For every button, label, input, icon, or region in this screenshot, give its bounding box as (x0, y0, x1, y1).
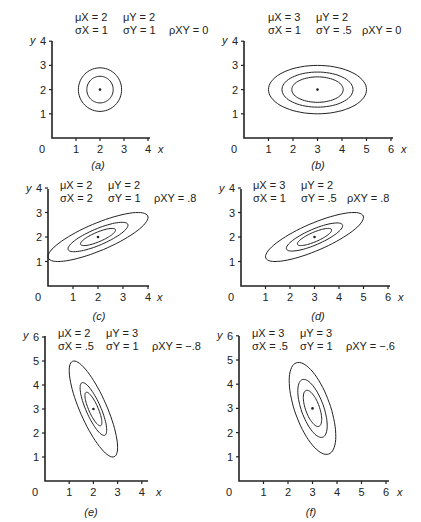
mean-point (99, 88, 102, 91)
x-tick-label: 5 (358, 486, 364, 498)
x-tick-label: 2 (90, 486, 96, 498)
param-mu-y: μY = 2 (301, 179, 333, 191)
param-rho-xy: ρXY = 0 (169, 24, 208, 36)
y-tick-label: 3 (227, 402, 233, 414)
x-axis-label: x (156, 291, 163, 303)
param-mu-x: μX = 3 (253, 179, 285, 191)
x-tick-label: 0 (228, 291, 234, 303)
mean-point (311, 407, 314, 410)
param-sigma-y: σY = 1 (108, 192, 141, 204)
y-tick-label: 1 (40, 108, 46, 120)
x-tick-label: 4 (334, 486, 340, 498)
x-tick-label: 6 (388, 143, 394, 155)
param-rho-xy: ρXY = .8 (154, 192, 196, 204)
param-mu-y: μY = 2 (123, 11, 155, 23)
y-axis-label: y (22, 329, 30, 341)
y-tick-label: 6 (227, 330, 233, 342)
y-tick-label: 1 (36, 256, 42, 268)
y-axis-label: y (218, 182, 226, 194)
y-tick-label: 4 (33, 379, 39, 391)
panel-d: 12340123456xy(d)μX = 3μY = 2σX = 1σY = .… (218, 179, 404, 322)
mean-point (92, 408, 95, 411)
param-sigma-x: σX = .5 (252, 340, 288, 352)
mean-point (97, 236, 100, 239)
param-sigma-y: σY = 1 (106, 340, 139, 352)
panel-b: 12340123456xy(b)μX = 3μY = 2σX = 1σY = .… (221, 11, 407, 171)
panel-label: (c) (93, 310, 106, 322)
param-mu-y: μY = 2 (316, 11, 348, 23)
x-tick-label: 0 (32, 486, 38, 498)
x-tick-label: 2 (97, 143, 103, 155)
param-mu-x: μX = 2 (75, 11, 107, 23)
x-tick-label: 0 (226, 486, 232, 498)
panel-c: 123401234xy(c)μX = 2μY = 2σX = 2σY = 1ρX… (25, 179, 196, 322)
mean-point (316, 88, 319, 91)
x-tick-label: 3 (121, 143, 127, 155)
x-tick-label: 2 (290, 143, 296, 155)
x-axis-label: x (157, 143, 164, 155)
x-tick-label: 5 (360, 291, 366, 303)
param-rho-xy: ρXY = 0 (362, 24, 401, 36)
param-rho-xy: ρXY = .8 (347, 192, 389, 204)
x-axis-label: x (155, 486, 162, 498)
x-axis-label: x (400, 143, 407, 155)
y-tick-label: 4 (229, 182, 235, 194)
axes (45, 336, 148, 481)
param-sigma-x: σX = 1 (268, 24, 301, 36)
param-mu-y: μY = 2 (108, 179, 140, 191)
y-tick-label: 1 (227, 451, 233, 463)
y-tick-label: 3 (232, 59, 238, 71)
x-tick-label: 0 (231, 143, 237, 155)
y-tick-label: 1 (33, 451, 39, 463)
x-tick-label: 1 (265, 143, 271, 155)
y-tick-label: 3 (229, 207, 235, 219)
x-tick-label: 5 (363, 143, 369, 155)
param-sigma-y: σY = 1 (123, 24, 156, 36)
x-tick-label: 1 (73, 143, 79, 155)
x-tick-label: 4 (336, 291, 342, 303)
param-mu-x: μX = 3 (252, 327, 284, 339)
x-tick-label: 1 (70, 291, 76, 303)
param-mu-y: μY = 3 (300, 327, 332, 339)
y-axis-label: y (25, 182, 33, 194)
param-mu-x: μX = 2 (60, 179, 92, 191)
param-sigma-x: σX = 2 (60, 192, 93, 204)
x-tick-label: 3 (314, 143, 320, 155)
y-axis-label: y (221, 34, 229, 46)
y-tick-label: 1 (229, 256, 235, 268)
panel-label: (e) (84, 506, 98, 518)
y-tick-label: 2 (33, 427, 39, 439)
y-tick-label: 2 (227, 427, 233, 439)
x-tick-label: 3 (309, 486, 315, 498)
x-tick-label: 4 (145, 143, 151, 155)
y-tick-label: 2 (36, 231, 42, 243)
param-sigma-y: σY = .5 (301, 192, 337, 204)
mean-point (313, 236, 316, 239)
x-tick-label: 1 (262, 291, 268, 303)
param-sigma-x: σX = 1 (253, 192, 286, 204)
y-tick-label: 4 (40, 35, 46, 47)
y-tick-label: 4 (232, 35, 238, 47)
x-tick-label: 1 (260, 486, 266, 498)
x-tick-label: 1 (66, 486, 72, 498)
param-rho-xy: ρXY = −.6 (346, 340, 395, 352)
x-tick-label: 3 (115, 486, 121, 498)
y-axis-label: y (216, 329, 224, 341)
panel-label: (a) (91, 159, 105, 171)
panel-f: 1234560123456xy(f)μX = 3μY = 3σX = .5σY … (216, 327, 403, 518)
panel-label: (b) (311, 159, 325, 171)
param-sigma-y: σY = 1 (300, 340, 333, 352)
y-tick-label: 2 (232, 84, 238, 96)
y-tick-label: 2 (40, 84, 46, 96)
y-tick-label: 4 (36, 182, 42, 194)
y-tick-label: 2 (229, 231, 235, 243)
y-tick-label: 5 (33, 355, 39, 367)
param-sigma-x: σX = 1 (75, 24, 108, 36)
y-tick-label: 4 (227, 378, 233, 390)
param-sigma-y: σY = .5 (316, 24, 352, 36)
panel-a: 123401234xy(a)μX = 2μY = 2σX = 1σY = 1ρX… (29, 11, 208, 171)
y-tick-label: 5 (227, 354, 233, 366)
panel-label: (f) (306, 506, 317, 518)
figure: 123401234xy(a)μX = 2μY = 2σX = 1σY = 1ρX… (0, 0, 421, 522)
param-mu-x: μX = 3 (268, 11, 300, 23)
